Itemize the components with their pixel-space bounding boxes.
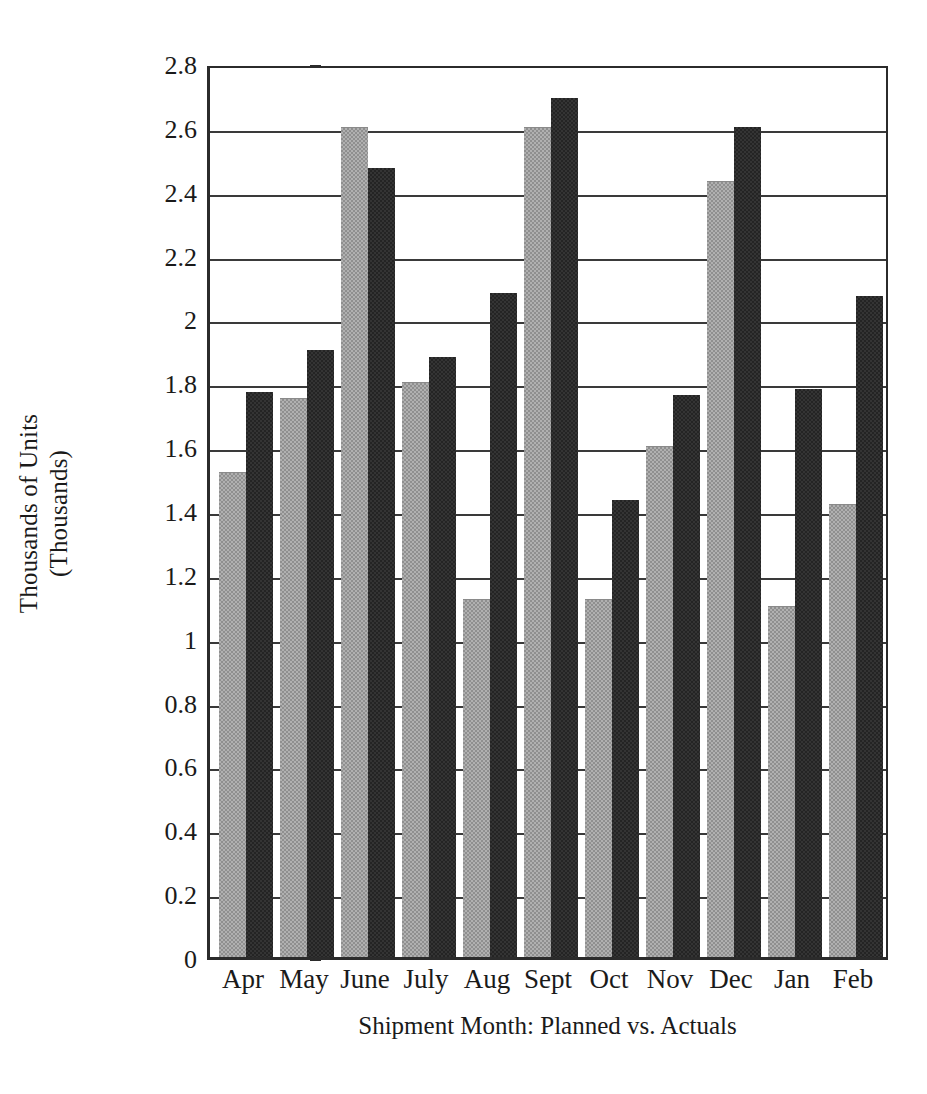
y-axis-tick-label: 2.2 [143,245,207,271]
bar-group [646,68,700,957]
y-axis-tick-label: 0.4 [143,819,207,845]
y-axis-tick-labels: 00.20.40.60.811.21.41.61.822.22.42.62.8 [113,0,207,1094]
bar-actuals-oct [612,500,639,957]
y-axis-tick-label: 2 [143,308,207,334]
plot-area [207,66,888,960]
bar-planned-feb [829,504,856,957]
bar-planned-oct [585,599,612,957]
bar-group [463,68,517,957]
bar-planned-july [402,382,429,957]
x-axis-tick-label: Jan [765,966,819,993]
y-axis-tick-label: 2.4 [143,181,207,207]
bar-actuals-july [429,357,456,957]
bar-group [768,68,822,957]
bar-actuals-june [368,168,395,957]
bar-chart: Thousands of Units (Thousands) 00.20.40.… [0,0,927,1094]
y-axis-tick-label: 1.4 [143,500,207,526]
y-axis-title-line1: Thousands of Units [16,413,43,612]
bar-planned-apr [219,472,246,957]
bar-planned-nov [646,446,673,957]
bar-group [219,68,273,957]
bar-planned-sept [524,127,551,957]
bar-group [402,68,456,957]
x-axis-tick-label: Nov [643,966,697,993]
y-axis-tick-label: 0.6 [143,755,207,781]
bar-actuals-may [307,350,334,957]
x-axis-tick-label: Aug [460,966,514,993]
x-axis-tick-labels: AprMayJuneJulyAugSeptOctNovDecJanFeb [207,966,888,1008]
bar-group [585,68,639,957]
bar-actuals-jan [795,389,822,957]
x-axis-tick-label: Apr [216,966,270,993]
x-axis-tick-label: May [277,966,331,993]
y-axis-tick-label: 2.8 [143,53,207,79]
y-axis-title-line2: (Thousands) [44,413,74,612]
y-axis-tick-label: 1.2 [143,564,207,590]
bar-planned-june [341,127,368,957]
y-axis-tick-label: 1 [143,628,207,654]
bar-actuals-nov [673,395,700,957]
bar-group [280,68,334,957]
bar-group [524,68,578,957]
y-axis-tick-label: 1.6 [143,436,207,462]
x-axis-tick-label: Feb [826,966,880,993]
bar-planned-jan [768,606,795,957]
x-axis-tick-label: June [338,966,392,993]
y-axis-tick-label: 0.8 [143,692,207,718]
y-axis-tick-label: 2.6 [143,117,207,143]
bar-planned-dec [707,181,734,957]
y-axis-title: Thousands of Units (Thousands) [14,66,74,960]
bar-group [341,68,395,957]
x-axis-title: Shipment Month: Planned vs. Actuals [207,1013,888,1038]
bar-group [829,68,883,957]
bar-actuals-sept [551,98,578,957]
x-axis-tick-label: Oct [582,966,636,993]
bar-group [707,68,761,957]
y-axis-tick-label: 0.2 [143,883,207,909]
bar-actuals-aug [490,293,517,957]
x-axis-tick-label: July [399,966,453,993]
bar-actuals-apr [246,392,273,957]
bar-actuals-feb [856,296,883,957]
x-axis-tick-label: Dec [704,966,758,993]
bar-planned-aug [463,599,490,957]
bar-groups [210,68,886,957]
x-axis-tick-label: Sept [521,966,575,993]
bar-actuals-dec [734,127,761,957]
y-axis-tick-label: 0 [143,947,207,973]
bar-planned-may [280,398,307,957]
y-axis-tick-label: 1.8 [143,372,207,398]
